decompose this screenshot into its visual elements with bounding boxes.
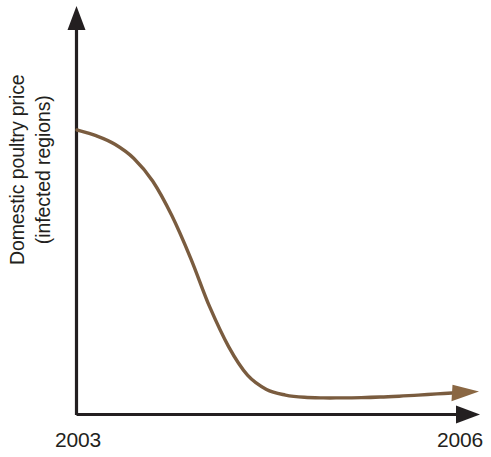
x-axis-arrow-icon: [456, 406, 480, 424]
x-tick-label-start: 2003: [55, 428, 101, 452]
curve-arrow-icon: [452, 385, 480, 401]
x-tick-label-end: 2006: [437, 428, 483, 452]
chart-figure: Domestic poultry price (infected regions…: [0, 0, 491, 457]
price-curve: [77, 130, 456, 398]
chart-plot-area: [0, 0, 491, 457]
y-axis-arrow-icon: [68, 6, 86, 30]
